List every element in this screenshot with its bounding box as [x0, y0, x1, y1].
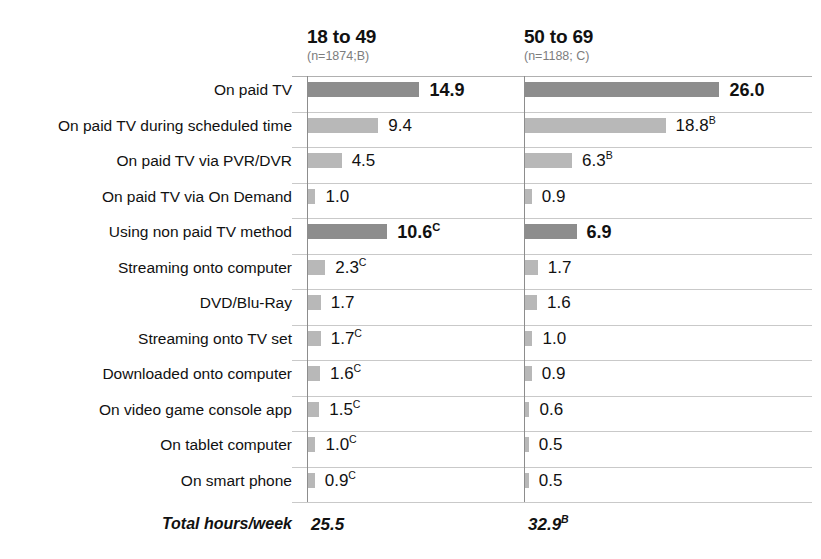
grid-line-top [292, 76, 812, 77]
value-label-1: 1.7 [331, 294, 355, 312]
column-title: 18 to 49 [307, 26, 376, 48]
row-label: On paid TV [0, 81, 292, 99]
value-label-1: 1.7C [331, 330, 362, 348]
bar-1 [308, 118, 378, 133]
axis-baseline-2 [524, 76, 525, 502]
value-label-2: 6.3B [582, 152, 613, 170]
row-label: On smart phone [0, 472, 292, 490]
grid-line [292, 502, 812, 503]
value-label-1: 2.3C [335, 259, 366, 277]
column-title: 50 to 69 [524, 26, 593, 48]
bar-2 [525, 366, 532, 381]
value-label-1: 1.0C [325, 436, 356, 454]
significance-marker: C [432, 221, 440, 233]
bar-1 [308, 295, 321, 310]
bar-1 [308, 260, 325, 275]
value-label-2: 0.5 [539, 472, 563, 490]
column-sample-size: (n=1874;B) [307, 48, 376, 64]
value-label-2: 6.9 [587, 223, 612, 241]
grid-line [292, 147, 812, 148]
row-label: Downloaded onto computer [0, 365, 292, 383]
value-label-2: 1.0 [542, 330, 566, 348]
value-label-2: 0.5 [539, 436, 563, 454]
grid-line [292, 254, 812, 255]
significance-marker: C [353, 398, 361, 410]
value-label-1: 9.4 [388, 117, 412, 135]
grid-line [292, 325, 812, 326]
bar-2 [525, 153, 572, 168]
row-label: On video game console app [0, 401, 292, 419]
total-value-2: 32.9B [528, 515, 569, 535]
significance-marker: B [709, 114, 716, 126]
row-label: On paid TV during scheduled time [0, 117, 292, 135]
significance-marker: C [349, 433, 357, 445]
significance-marker: C [359, 256, 367, 268]
bar-2 [525, 82, 719, 97]
value-label-1: 4.5 [352, 152, 376, 170]
stacked-comparison-bar-chart: 18 to 49(n=1874;B)50 to 69(n=1188; C)On … [0, 0, 821, 559]
bar-2 [525, 473, 529, 488]
bar-1 [308, 224, 387, 239]
bar-2 [525, 189, 532, 204]
grid-line [292, 183, 812, 184]
value-label-1: 1.0 [325, 188, 349, 206]
value-label-1: 1.6C [330, 365, 361, 383]
value-label-1: 0.9C [325, 472, 356, 490]
bar-2 [525, 224, 577, 239]
value-label-1: 14.9 [429, 81, 464, 99]
grid-line [292, 289, 812, 290]
value-label-2: 0.6 [539, 401, 563, 419]
bar-2 [525, 118, 666, 133]
value-label-2: 0.9 [542, 188, 566, 206]
bar-2 [525, 295, 537, 310]
grid-line [292, 431, 812, 432]
row-label: On tablet computer [0, 436, 292, 454]
value-label-2: 0.9 [542, 365, 566, 383]
value-label-1: 10.6C [397, 223, 440, 241]
total-value-1: 25.5 [311, 515, 344, 535]
significance-marker: C [354, 327, 362, 339]
row-label: Using non paid TV method [0, 223, 292, 241]
row-label: DVD/Blu-Ray [0, 294, 292, 312]
column-sample-size: (n=1188; C) [524, 48, 593, 64]
bar-1 [308, 331, 321, 346]
row-label: Streaming onto TV set [0, 330, 292, 348]
bar-1 [308, 437, 315, 452]
bar-2 [525, 331, 532, 346]
grid-line [292, 218, 812, 219]
bar-2 [525, 402, 529, 417]
grid-line [292, 396, 812, 397]
total-row-label: Total hours/week [0, 515, 292, 533]
bar-1 [308, 189, 315, 204]
column-header-2: 50 to 69(n=1188; C) [524, 26, 593, 64]
grid-line [292, 360, 812, 361]
bar-2 [525, 437, 529, 452]
significance-marker: B [606, 149, 613, 161]
bar-1 [308, 153, 342, 168]
bar-1 [308, 366, 320, 381]
bar-1 [308, 82, 419, 97]
axis-baseline-1 [307, 76, 308, 502]
row-label: On paid TV via PVR/DVR [0, 152, 292, 170]
grid-line [292, 112, 812, 113]
value-label-2: 1.6 [547, 294, 571, 312]
bar-2 [525, 260, 538, 275]
value-label-1: 1.5C [329, 401, 360, 419]
value-label-2: 26.0 [729, 81, 764, 99]
significance-marker: C [348, 469, 356, 481]
bar-1 [308, 473, 315, 488]
row-label: On paid TV via On Demand [0, 188, 292, 206]
bar-1 [308, 402, 319, 417]
value-label-2: 1.7 [548, 259, 572, 277]
row-label: Streaming onto computer [0, 259, 292, 277]
significance-marker: B [561, 513, 569, 525]
significance-marker: C [354, 362, 362, 374]
value-label-2: 18.8B [676, 117, 716, 135]
column-header-1: 18 to 49(n=1874;B) [307, 26, 376, 64]
grid-line [292, 467, 812, 468]
